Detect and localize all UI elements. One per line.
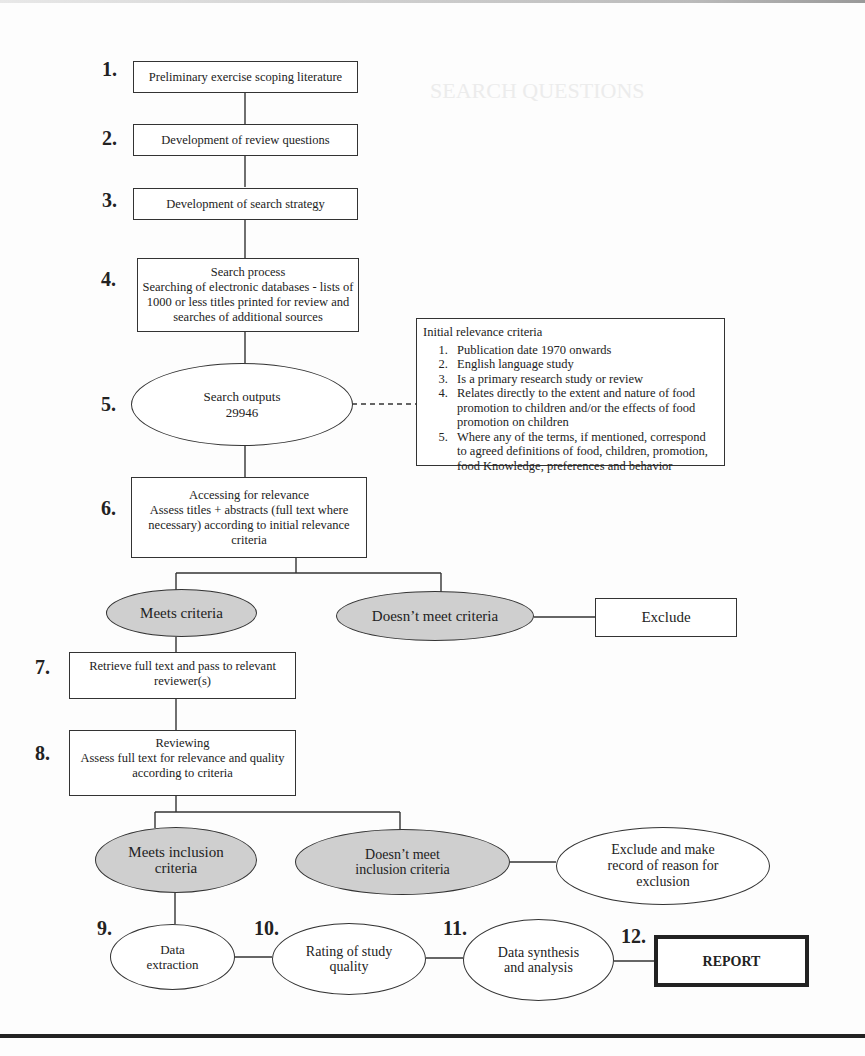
step-number-11: 11.: [443, 917, 467, 940]
step-number-10: 10.: [254, 917, 279, 940]
step-2-box: Development of review questions: [133, 124, 358, 156]
bottom-rule: [0, 1034, 865, 1038]
step-7-label: Retrieve full text and pass to relevant …: [74, 659, 291, 689]
criteria-item: Is a primary research study or review: [451, 372, 718, 387]
doesnt-meet-inclusion-label: Doesn’t meet inclusion criteria: [340, 847, 465, 877]
meets-criteria-ellipse: Meets criteria: [106, 589, 257, 637]
step-number-4: 4.: [101, 268, 116, 291]
step-3-box: Development of search strategy: [133, 188, 358, 220]
meets-inclusion-ellipse: Meets inclusion criteria: [95, 827, 257, 893]
step-11-ellipse: Data synthesis and analysis: [463, 919, 614, 1001]
step-7-box: Retrieve full text and pass to relevant …: [69, 652, 296, 699]
step-10-ellipse: Rating of study quality: [272, 923, 426, 995]
exclude-record-label: Exclude and make record of reason for ex…: [597, 842, 729, 890]
step-number-12: 12.: [621, 925, 646, 948]
step-8-title: Reviewing: [155, 736, 209, 751]
relevance-criteria-box: Initial relevance criteria Publication d…: [416, 318, 725, 466]
step-9-ellipse: Data extraction: [110, 924, 235, 990]
exclude-record-ellipse: Exclude and make record of reason for ex…: [556, 827, 770, 905]
report-label: REPORT: [703, 954, 761, 969]
step-4-box: Search process Searching of electronic d…: [137, 258, 359, 332]
step-1-box: Preliminary exercise scoping literature: [133, 61, 358, 93]
step-8-box: Reviewing Assess full text for relevance…: [69, 730, 296, 796]
step-9-label: Data extraction: [133, 942, 212, 972]
step-number-7: 7.: [35, 656, 50, 679]
connector-lines: [0, 0, 865, 1056]
step-number-2: 2.: [102, 127, 117, 150]
step-number-1: 1.: [102, 58, 117, 81]
step-6-title: Accessing for relevance: [189, 488, 309, 503]
step-11-label: Data synthesis and analysis: [490, 945, 587, 975]
doesnt-meet-criteria-label: Doesn’t meet criteria: [372, 608, 498, 624]
criteria-item: Publication date 1970 onwards: [451, 343, 718, 358]
relevance-criteria-title: Initial relevance criteria: [423, 325, 718, 340]
step-3-label: Development of search strategy: [166, 197, 325, 212]
doesnt-meet-criteria-ellipse: Doesn’t meet criteria: [336, 591, 534, 641]
criteria-item: English language study: [451, 357, 718, 372]
step-6-label: Assess titles + abstracts (full text whe…: [136, 503, 362, 548]
flowchart: SEARCH QUESTIONS 1. 2. 3. 4. 5. 6. 7. 8.…: [0, 0, 865, 1056]
step-5-title: Search outputs: [204, 389, 281, 405]
step-6-box: Accessing for relevance Assess titles + …: [131, 477, 367, 558]
step-number-3: 3.: [102, 189, 117, 212]
meets-inclusion-label: Meets inclusion criteria: [122, 844, 230, 876]
step-10-label: Rating of study quality: [301, 944, 397, 974]
step-4-title: Search process: [211, 265, 286, 280]
step-5-ellipse: Search outputs 29946: [131, 363, 353, 446]
step-8-label: Assess full text for relevance and quali…: [74, 751, 291, 781]
criteria-item: Relates directly to the extent and natur…: [451, 386, 718, 430]
step-number-6: 6.: [101, 497, 116, 520]
relevance-criteria-list: Publication date 1970 onwards English la…: [423, 343, 718, 474]
step-1-label: Preliminary exercise scoping literature: [149, 70, 342, 85]
criteria-item: Where any of the terms, if mentioned, co…: [451, 430, 718, 474]
step-2-label: Development of review questions: [161, 133, 329, 148]
step-5-count: 29946: [226, 405, 259, 421]
meets-criteria-label: Meets criteria: [140, 605, 223, 621]
step-number-5: 5.: [101, 393, 116, 416]
exclude-box: Exclude: [595, 598, 737, 637]
report-box: REPORT: [654, 935, 809, 987]
step-number-9: 9.: [97, 917, 112, 940]
step-number-8: 8.: [35, 742, 50, 765]
exclude-label: Exclude: [641, 610, 690, 625]
doesnt-meet-inclusion-ellipse: Doesn’t meet inclusion criteria: [295, 829, 510, 895]
step-4-label: Searching of electronic databases - list…: [142, 280, 354, 325]
